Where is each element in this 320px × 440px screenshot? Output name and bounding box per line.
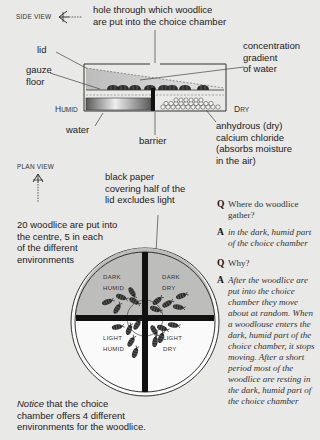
qa-key: A <box>217 275 228 407</box>
qa-key: Q <box>217 199 228 221</box>
quadrant-line: LIGHT <box>103 333 124 344</box>
notice-rest: that the choice <box>44 398 108 409</box>
gauze-label-line: gauze <box>26 64 52 76</box>
lid-label: lid <box>37 44 47 56</box>
gauze-label-line: floor <box>26 76 52 88</box>
quadrant-line: HUMID <box>103 344 124 355</box>
quadrant-line: HUMID <box>103 283 124 294</box>
qa-key: Q <box>217 258 228 269</box>
dry-label-rest: RY <box>240 106 249 113</box>
gradient-label-line: concentration <box>243 40 300 52</box>
black-paper-line: black paper <box>105 171 185 183</box>
dry-label: DRY <box>234 98 249 116</box>
side-view-chamber <box>84 64 226 111</box>
qa-text: in the dark, humid part of the choice ch… <box>228 227 317 249</box>
qa-question: Q Why? <box>217 258 317 269</box>
black-paper-line: covering half of the <box>105 183 185 195</box>
plan-view-eye-icon <box>33 174 43 202</box>
qa-text: After the woodlice are put into the choi… <box>228 275 317 407</box>
notice-text: Notice that the choice chamber offers 4 … <box>17 398 146 433</box>
qa-answer: A After the woodlice are put into the ch… <box>217 275 317 407</box>
plan-view-title: PLAN VIEW <box>17 163 54 170</box>
humid-label-rest: UMID <box>61 106 78 113</box>
hole-label: hole through which woodlice are put into… <box>93 4 226 27</box>
woodlice-count-label: 20 woodlice are put into the centre, 5 i… <box>17 219 117 265</box>
quadrant-line: DRY <box>162 283 180 294</box>
woodlice-label-line: the centre, 5 in each <box>17 231 117 243</box>
qa-text: Why? <box>228 258 250 269</box>
barrier-label: barrier <box>139 135 166 147</box>
chloride-label-line: anhydrous (dry) <box>216 120 292 132</box>
woodlice-label-line: environments <box>17 254 117 266</box>
calcium-chloride-label: anhydrous (dry) calcium chloride (absorb… <box>216 120 292 166</box>
quadrant-dark-dry: DARK DRY <box>162 272 180 294</box>
qa-answer: A in the dark, humid part of the choice … <box>217 227 317 249</box>
quadrant-line: DRY <box>163 344 182 355</box>
quadrant-dark-humid: DARK HUMID <box>103 272 124 294</box>
black-paper-label: black paper covering half of the lid exc… <box>105 171 185 206</box>
gauze-floor-label: gauze floor <box>26 64 52 87</box>
quadrant-line: DARK <box>162 272 180 283</box>
chloride-label-line: (absorbs moisture <box>216 143 292 155</box>
quadrant-light-dry: LIGHT DRY <box>163 333 182 355</box>
gradient-label-line: gradient <box>243 52 300 64</box>
notice-line: chamber offers 4 different <box>17 410 146 422</box>
quadrant-light-humid: LIGHT HUMID <box>103 333 124 355</box>
notice-line: environments for the woodlice. <box>17 421 146 433</box>
woodlice-label-line: 20 woodlice are put into <box>17 219 117 231</box>
qa-text: Where do woodlice gather? <box>228 199 317 221</box>
hole-label-line: are put into the choice chamber <box>93 16 226 28</box>
chloride-label-line: in the air) <box>216 155 292 167</box>
side-view-eye-icon <box>59 11 82 23</box>
black-paper-line: lid excludes light <box>105 194 185 206</box>
plan-view-chamber <box>71 248 219 396</box>
quadrant-line: LIGHT <box>163 333 182 344</box>
side-view-title: SIDE VIEW <box>16 13 51 20</box>
gradient-label-line: of water <box>243 63 300 75</box>
qa-question: Q Where do woodlice gather? <box>217 199 317 221</box>
quadrant-line: DARK <box>103 272 124 283</box>
qa-panel: Q Where do woodlice gather? A in the dar… <box>217 199 317 413</box>
gradient-label: concentration gradient of water <box>243 40 300 75</box>
water-label: water <box>66 124 89 136</box>
notice-emphasis: Notice <box>17 398 44 409</box>
humid-label: HUMID <box>55 98 78 116</box>
chloride-label-line: calcium chloride <box>216 132 292 144</box>
hole-label-line: hole through which woodlice <box>93 4 226 16</box>
qa-key: A <box>217 227 228 249</box>
woodlice-label-line: of the different <box>17 242 117 254</box>
